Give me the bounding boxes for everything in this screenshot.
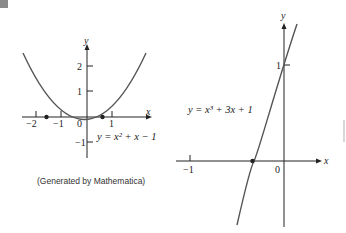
right-y-label: y (280, 10, 286, 21)
figure-caption: (Generated by Mathematica) (37, 176, 145, 186)
left-y-label: y (83, 35, 89, 46)
svg-text:−1: −1 (75, 137, 86, 148)
left-root-point (100, 115, 104, 119)
left-root-point (44, 115, 48, 119)
svg-text:1: 1 (109, 118, 114, 129)
svg-text:1: 1 (276, 60, 281, 71)
svg-text:2: 2 (77, 61, 82, 72)
left-curve (23, 53, 146, 120)
right-y-arrow-icon (282, 23, 287, 29)
left-plot: x y −2 −1 0 1 1 2 −1 y = x² + x − 1 (22, 35, 156, 158)
right-curve (237, 24, 297, 225)
svg-text:0: 0 (77, 118, 82, 129)
svg-text:1: 1 (77, 86, 82, 97)
figure-canvas: x y −2 −1 0 1 1 2 −1 y = x² + x − 1 x y … (0, 0, 346, 233)
left-x-label: x (145, 106, 151, 117)
svg-text:−1: −1 (53, 118, 64, 129)
right-x-arrow-icon (316, 159, 322, 164)
right-plot: x y −1 0 1 y = x³ + 3x + 1 (176, 10, 329, 227)
svg-text:0: 0 (275, 164, 280, 175)
svg-text:−2: −2 (26, 118, 37, 129)
right-root-point (250, 159, 254, 163)
svg-text:−1: −1 (183, 164, 194, 175)
right-equation-label: y = x³ + 3x + 1 (187, 104, 253, 115)
left-equation-label: y = x² + x − 1 (96, 131, 156, 142)
right-x-label: x (323, 155, 329, 166)
